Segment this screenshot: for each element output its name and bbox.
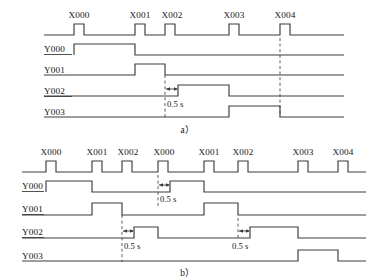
delay-label-0-5s: 0.5 s	[160, 194, 177, 204]
timing-diagram-canvas: X000 X001 X002 X003 X004 Y000 Y001 Y002 …	[0, 0, 375, 280]
panel-b-signal-label-y000: Y000	[22, 181, 43, 191]
delay-arrow-head-right	[166, 183, 170, 187]
panel-b: X000 X001 X002 X000 X001 X002 X003 X004 …	[22, 147, 366, 278]
panel-a-input-waveform	[44, 24, 344, 35]
panel-a-caption: a）	[180, 125, 193, 135]
delay-arrow-head-right	[174, 87, 178, 91]
panel-a-waveform-y001	[44, 64, 344, 75]
panel-a-delay-annotation: 0.5 s	[166, 87, 184, 109]
input-label-x001-1: X001	[87, 147, 108, 157]
panel-b-input-labels: X000 X001 X002 X000 X001 X002 X003 X004	[41, 147, 354, 157]
delay-arrow-head-left	[239, 229, 243, 233]
panel-b-signal-label-y002: Y002	[22, 227, 43, 237]
panel-a-input-labels: X000 X001 X002 X003 X004	[69, 10, 296, 20]
panel-b-delay-annotation-y000: 0.5 s	[159, 183, 177, 204]
input-label-x004-1: X004	[333, 147, 354, 157]
input-label-x000: X000	[69, 10, 90, 20]
panel-a-signal-label-y003: Y003	[44, 107, 65, 117]
input-label-x002-1: X002	[118, 147, 139, 157]
panel-b-waveform-y000	[46, 181, 366, 192]
panel-b-waveform-y002	[22, 227, 366, 238]
panel-a-waveform-y002	[44, 85, 344, 96]
delay-arrow-head-left	[123, 229, 127, 233]
panel-b-signal-label-y001: Y001	[22, 204, 43, 214]
timing-diagram-figure: X000 X001 X002 X003 X004 Y000 Y001 Y002 …	[0, 0, 375, 280]
panel-a: X000 X001 X002 X003 X004 Y000 Y001 Y002 …	[44, 10, 344, 135]
input-label-x002: X002	[162, 10, 183, 20]
panel-b-caption: b）	[180, 268, 194, 278]
panel-b-delay-annotation-y002-first: 0.5 s	[123, 229, 141, 251]
delay-label-0-5s: 0.5 s	[167, 99, 184, 109]
panel-b-waveform-y003	[22, 250, 366, 261]
panel-b-signal-label-y003: Y003	[22, 251, 43, 261]
panel-b-input-waveform	[22, 161, 366, 172]
panel-b-waveform-y001	[22, 203, 366, 215]
delay-arrow-head-left	[166, 87, 170, 91]
delay-label-0-5s: 0.5 s	[124, 241, 141, 251]
input-label-x001: X001	[130, 10, 151, 20]
panel-b-delay-annotation-y002-second: 0.5 s	[232, 229, 250, 251]
panel-a-waveform-y003	[44, 106, 344, 117]
input-label-x000-2: X000	[154, 147, 175, 157]
input-label-x001-2: X001	[199, 147, 220, 157]
panel-a-waveform-y000	[74, 44, 344, 55]
input-label-x002-2: X002	[233, 147, 254, 157]
panel-a-signal-label-y002: Y002	[44, 86, 65, 96]
delay-label-0-5s: 0.5 s	[232, 241, 249, 251]
input-label-x004: X004	[275, 10, 296, 20]
panel-a-signal-label-y001: Y001	[44, 65, 65, 75]
panel-a-signal-label-y000: Y000	[44, 44, 65, 54]
delay-arrow-head-right	[246, 229, 250, 233]
delay-arrow-head-right	[130, 229, 134, 233]
delay-arrow-head-left	[159, 183, 163, 187]
input-label-x003: X003	[224, 10, 245, 20]
input-label-x003-1: X003	[293, 147, 314, 157]
input-label-x000-1: X000	[41, 147, 62, 157]
